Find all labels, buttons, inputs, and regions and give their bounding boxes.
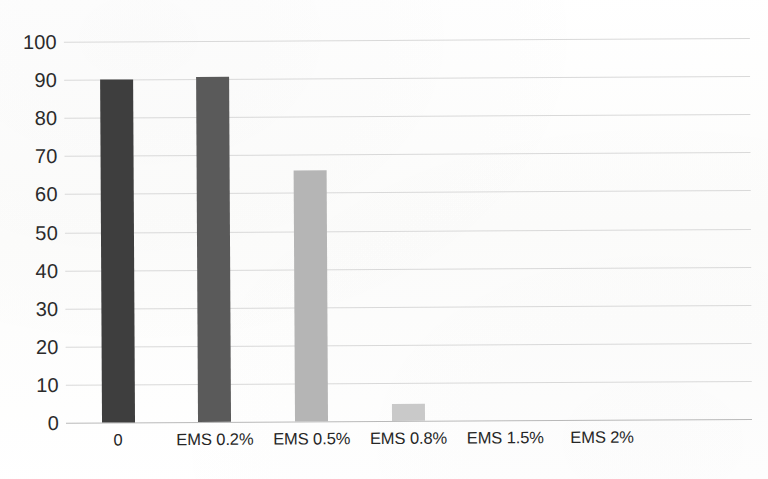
x-axis: 0EMS 0.2%EMS 0.5%EMS 0.8%EMS 1.5%EMS 2% <box>1 428 768 462</box>
bar <box>100 79 135 422</box>
bar-chart: 0102030405060708090100 0EMS 0.2%EMS 0.5%… <box>0 0 768 479</box>
x-axis-tick-label: EMS 0.2% <box>176 431 253 448</box>
x-axis-tick-label: 0 <box>114 431 123 448</box>
bar-series <box>0 0 768 479</box>
bar <box>294 170 328 422</box>
x-axis-tick-label: EMS 2% <box>570 429 634 446</box>
x-axis-tick-label: EMS 0.8% <box>370 430 447 447</box>
x-axis-tick-label: EMS 1.5% <box>467 429 544 446</box>
plot-area: 0102030405060708090100 0EMS 0.2%EMS 0.5%… <box>0 0 768 479</box>
bar <box>196 77 231 422</box>
x-axis-tick-label: EMS 0.5% <box>273 430 350 447</box>
bar <box>392 404 425 421</box>
